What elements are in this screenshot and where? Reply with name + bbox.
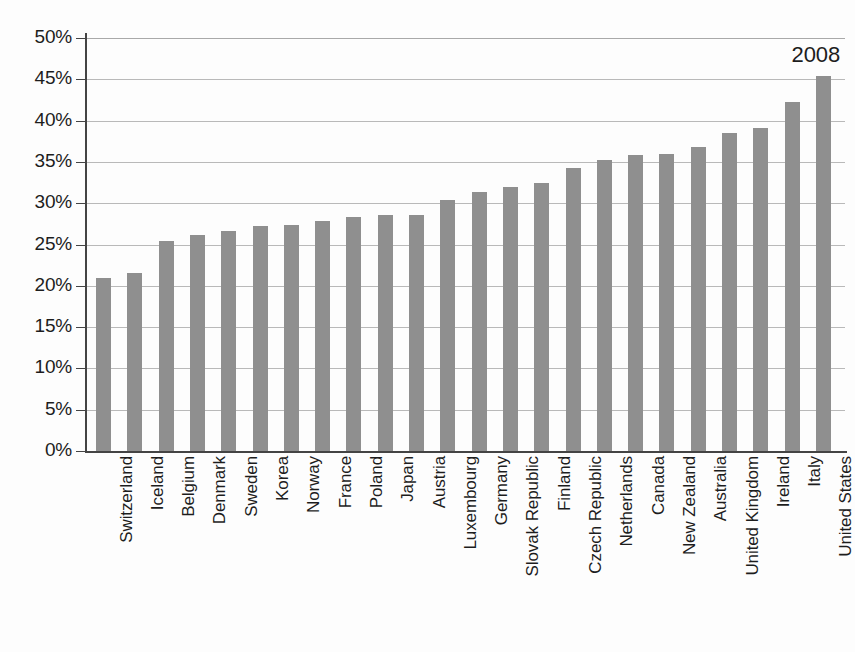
x-axis-tick-label-text: New Zealand bbox=[680, 456, 700, 555]
x-axis-tick-label: France bbox=[330, 456, 350, 508]
x-axis-tick-label: Denmark bbox=[204, 456, 224, 524]
y-axis-tick-label: 30% bbox=[10, 191, 72, 213]
y-axis-tick-label: 10% bbox=[10, 356, 72, 378]
x-axis-tick-label: Iceland bbox=[142, 456, 162, 510]
x-axis-tick-label: Canada bbox=[643, 456, 663, 515]
bar bbox=[753, 128, 768, 451]
x-axis-tick-label-text: Germany bbox=[492, 456, 512, 525]
x-axis-tick-label: Poland bbox=[361, 456, 381, 508]
x-axis-tick-label: United States bbox=[830, 456, 850, 557]
y-axis-tick bbox=[76, 245, 86, 246]
y-axis-tick bbox=[76, 327, 86, 328]
y-axis-tick bbox=[76, 38, 86, 39]
y-axis-tick-label: 20% bbox=[10, 274, 72, 296]
bar bbox=[346, 217, 361, 451]
x-axis-tick-label-text: Luxembourg bbox=[461, 456, 481, 550]
y-axis-tick bbox=[76, 79, 86, 80]
y-axis-tick-label: 15% bbox=[10, 315, 72, 337]
bar bbox=[816, 76, 831, 451]
x-axis-tick-label-text: Poland bbox=[367, 456, 387, 508]
x-axis-tick-label-text: United Kingdom bbox=[743, 456, 763, 576]
bar bbox=[315, 221, 330, 451]
y-axis-tick bbox=[76, 203, 86, 204]
y-axis-line bbox=[85, 33, 87, 453]
x-axis-tick-label: Switzerland bbox=[111, 456, 131, 543]
bar bbox=[597, 160, 612, 451]
x-axis-tick-label-text: Austria bbox=[430, 456, 450, 508]
y-axis-tick-label: 5% bbox=[10, 398, 72, 420]
x-axis-tick-label: United Kingdom bbox=[737, 456, 757, 576]
y-axis-tick bbox=[76, 368, 86, 369]
year-annotation: 2008 bbox=[791, 42, 840, 68]
x-axis-tick-label-text: Czech Republic bbox=[586, 456, 606, 574]
y-axis-tick bbox=[76, 451, 86, 452]
bar bbox=[534, 183, 549, 451]
x-axis-labels: SwitzerlandIcelandBelgiumDenmarkSwedenKo… bbox=[85, 456, 845, 652]
x-axis-tick-label-text: Korea bbox=[273, 456, 293, 501]
x-axis-tick-label-text: Netherlands bbox=[617, 456, 637, 547]
x-axis-tick-label-text: Italy bbox=[805, 456, 825, 487]
x-axis-tick-label: Luxembourg bbox=[455, 456, 475, 550]
x-axis-tick-label: Sweden bbox=[236, 456, 256, 517]
y-axis-tick bbox=[76, 162, 86, 163]
x-axis-tick-label-text: Slovak Republic bbox=[523, 456, 543, 576]
x-axis-tick-label: Germany bbox=[486, 456, 506, 525]
x-axis-tick-label: Korea bbox=[267, 456, 287, 501]
bar bbox=[159, 241, 174, 451]
x-axis-tick-label: Italy bbox=[799, 456, 819, 487]
x-axis-tick-label: Japan bbox=[392, 456, 412, 502]
y-axis-tick-label: 45% bbox=[10, 67, 72, 89]
bar bbox=[378, 215, 393, 451]
bar bbox=[253, 226, 268, 451]
x-axis-tick-label: Finland bbox=[549, 456, 569, 511]
y-axis-tick bbox=[76, 286, 86, 287]
bar bbox=[96, 278, 111, 451]
bar bbox=[284, 225, 299, 451]
bar bbox=[691, 147, 706, 451]
x-axis-tick-label: Slovak Republic bbox=[517, 456, 537, 576]
bar bbox=[785, 102, 800, 451]
bar bbox=[409, 215, 424, 451]
bar bbox=[628, 155, 643, 451]
bar bbox=[440, 200, 455, 451]
x-axis-tick-label-text: Canada bbox=[649, 456, 669, 515]
y-axis-tick-label: 35% bbox=[10, 150, 72, 172]
x-axis-tick-label-text: Switzerland bbox=[117, 456, 137, 543]
y-axis-tick-label: 0% bbox=[10, 439, 72, 461]
bar bbox=[659, 154, 674, 451]
x-axis-tick-label-text: Norway bbox=[304, 456, 324, 513]
bars-layer bbox=[85, 38, 845, 451]
y-axis-tick-label: 25% bbox=[10, 233, 72, 255]
x-axis-tick-label-text: United States bbox=[836, 456, 855, 557]
x-axis-tick-label-text: Denmark bbox=[210, 456, 230, 524]
x-axis-tick-label: Ireland bbox=[768, 456, 788, 507]
plot-area bbox=[85, 38, 845, 451]
x-axis-tick-label: Belgium bbox=[173, 456, 193, 517]
bar bbox=[221, 231, 236, 451]
y-axis-tick bbox=[76, 121, 86, 122]
x-axis-tick-label: Norway bbox=[298, 456, 318, 513]
x-axis-tick-label: Australia bbox=[705, 456, 725, 521]
bar bbox=[127, 273, 142, 451]
x-axis-tick-label-text: Australia bbox=[711, 456, 731, 521]
bar-chart: 0%5%10%15%20%25%30%35%40%45%50% Switzerl… bbox=[0, 0, 855, 652]
bar bbox=[472, 192, 487, 451]
y-axis-tick-label: 40% bbox=[10, 109, 72, 131]
x-axis-tick-label-text: Ireland bbox=[774, 456, 794, 507]
bar bbox=[566, 168, 581, 451]
x-axis-tick-label-text: France bbox=[336, 456, 356, 508]
x-axis-tick-label: Netherlands bbox=[611, 456, 631, 547]
y-axis-labels: 0%5%10%15%20%25%30%35%40%45%50% bbox=[0, 0, 72, 652]
bar bbox=[190, 235, 205, 451]
bar bbox=[503, 187, 518, 451]
y-axis-tick-label: 50% bbox=[10, 26, 72, 48]
y-axis-tick bbox=[76, 410, 86, 411]
x-axis-line bbox=[85, 451, 847, 453]
x-axis-tick-label-text: Finland bbox=[555, 456, 575, 511]
x-axis-tick-label-text: Belgium bbox=[179, 456, 199, 517]
x-axis-tick-label: Austria bbox=[424, 456, 444, 508]
x-axis-tick-label-text: Sweden bbox=[242, 456, 262, 517]
x-axis-tick-label: Czech Republic bbox=[580, 456, 600, 574]
x-axis-tick-label-text: Japan bbox=[398, 456, 418, 502]
x-axis-tick-label: New Zealand bbox=[674, 456, 694, 555]
